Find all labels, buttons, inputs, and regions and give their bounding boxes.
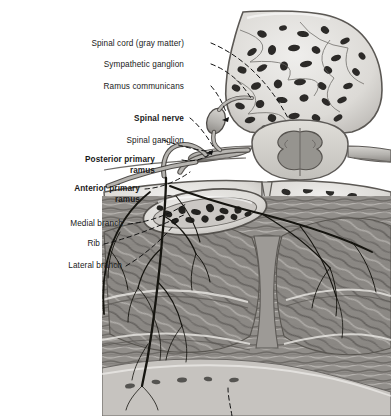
label-medial-branch: Medial branch xyxy=(70,219,123,230)
label-ramus-communicans: Ramus communicans xyxy=(104,82,184,93)
anatomical-figure: Spinal cord (gray matter)Sympathetic gan… xyxy=(0,0,391,416)
label-spinal-cord-gray-matter: Spinal cord (gray matter) xyxy=(91,39,184,50)
label-anterior-primary-ramus: Anterior primary ramus xyxy=(74,184,140,205)
label-spinal-ganglion: Spinal ganglion xyxy=(127,136,185,147)
label-lateral-branch: Lateral branch xyxy=(68,261,122,272)
label-rib: Rib xyxy=(87,239,100,250)
label-spinal-nerve: Spinal nerve xyxy=(134,114,184,125)
label-posterior-primary-ramus: Posterior primary ramus xyxy=(85,155,155,176)
label-layer: Spinal cord (gray matter)Sympathetic gan… xyxy=(0,0,391,416)
label-sympathetic-ganglion: Sympathetic ganglion xyxy=(104,60,184,71)
